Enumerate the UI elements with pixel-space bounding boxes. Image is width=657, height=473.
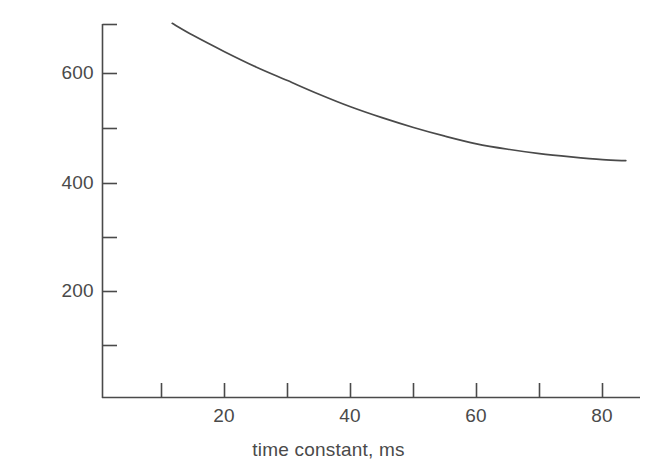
x-tick-label-20: 20 xyxy=(196,405,252,427)
x-axis-title: time constant, ms xyxy=(0,439,657,461)
axes-group xyxy=(102,24,640,398)
x-tick-label-60: 60 xyxy=(448,405,504,427)
y-tick-label-200: 200 xyxy=(38,280,94,302)
y-tick-label-400: 400 xyxy=(38,172,94,194)
y-axis-ticks xyxy=(103,25,118,346)
x-tick-label-40: 40 xyxy=(322,405,378,427)
x-tick-label-80: 80 xyxy=(574,405,630,427)
chart-figure: 600 400 200 20 40 60 80 time constant, m… xyxy=(0,0,657,473)
plot-canvas xyxy=(0,0,657,473)
y-tick-label-600: 600 xyxy=(38,62,94,84)
x-axis-ticks xyxy=(162,383,603,398)
data-series-line xyxy=(172,23,626,160)
